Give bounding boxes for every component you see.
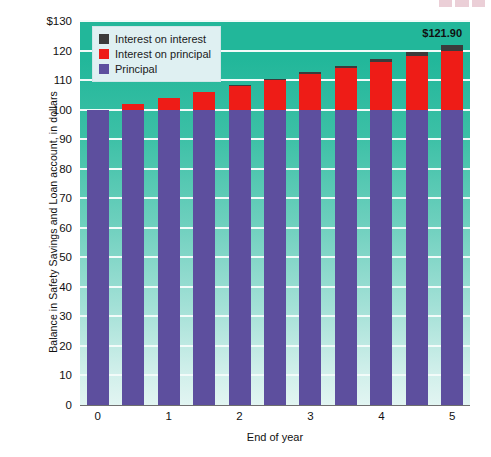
x-axis-tick-label: 4 [361,410,401,422]
bar-segment-principal [87,110,109,405]
bar-stack [335,66,357,405]
legend-swatch-interest-on-interest [99,34,109,44]
bar-segment-interest-on-principal [229,86,251,110]
bar-stack [441,45,463,405]
bar-stack [299,72,321,405]
y-axis-tick-label: $130 [12,15,72,27]
bar-segment-principal [370,110,392,405]
x-axis-tick-label: 0 [78,410,118,422]
x-axis-tick-label: 3 [290,410,330,422]
bar-segment-principal [299,110,321,405]
x-axis-tick-label: 1 [149,410,189,422]
x-axis-tick-label: 2 [220,410,260,422]
y-axis-tick-label: 10 [12,369,72,381]
legend-item-interest-on-interest: Interest on interest [99,31,211,46]
bar-stack [87,110,109,405]
bar-segment-principal [335,110,357,405]
bar-stack [406,52,428,405]
page-corner-artifact [439,0,485,7]
bar-stack [264,79,286,405]
bar-segment-principal [229,110,251,405]
y-axis-tick-label: 70 [12,192,72,204]
y-axis-tick-label: 20 [12,340,72,352]
legend-label-interest-on-interest: Interest on interest [115,33,206,45]
legend-label-interest-on-principal: Interest on principal [115,48,211,60]
bar-segment-interest-on-principal [370,62,392,109]
bar-segment-principal [158,110,180,405]
legend-swatch-principal [99,64,109,74]
bar-segment-interest-on-principal [158,98,180,110]
bar-stack [370,59,392,405]
x-axis-line [80,405,470,406]
bar-stack [158,98,180,405]
bar-segment-interest-on-principal [441,51,463,110]
artifact-mark-1 [439,0,452,7]
bar-segment-principal [122,110,144,405]
bar-segment-principal [406,110,428,405]
y-axis-tick-label: 40 [12,281,72,293]
y-axis-tick-label: 80 [12,163,72,175]
legend-swatch-interest-on-principal [99,49,109,59]
legend-item-principal: Principal [99,61,211,76]
y-axis-tick-label: 50 [12,251,72,263]
bar-stack [193,92,215,405]
y-axis-tick-label: 120 [12,45,72,57]
bar-segment-principal [193,110,215,405]
y-axis-tick-label: 110 [12,74,72,86]
legend-item-interest-on-principal: Interest on principal [99,46,211,61]
y-axis-tick-label: 100 [12,104,72,116]
x-axis-title: End of year [80,431,470,443]
bar-segment-principal [441,110,463,405]
artifact-mark-2 [455,0,468,7]
bar-segment-principal [264,110,286,405]
y-axis-tick-label: 60 [12,222,72,234]
bar-segment-interest-on-principal [335,68,357,109]
bar-stack [122,104,144,405]
bar-segment-interest-on-principal [193,92,215,110]
value-annotation: $121.90 [422,27,462,39]
y-axis-tick-label: 30 [12,310,72,322]
bar-segment-interest-on-principal [299,74,321,109]
y-axis-tick-label: 0 [12,399,72,411]
bar-stack [229,85,251,405]
y-axis-tick-label: 90 [12,133,72,145]
bar-segment-interest-on-principal [406,56,428,109]
legend-label-principal: Principal [115,63,157,75]
x-axis-tick-label: 5 [432,410,472,422]
bar-chart: Balance in Safety Savings and Loan accou… [0,0,491,457]
bar-segment-interest-on-principal [264,80,286,110]
chart-legend: Interest on interest Interest on princip… [92,26,221,82]
artifact-mark-3 [472,0,485,7]
